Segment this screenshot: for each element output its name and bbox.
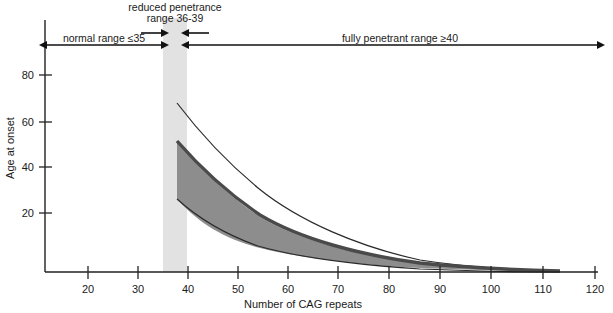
- upper-bound-curve: [177, 103, 560, 271]
- x-tick-label-70: 70: [332, 283, 344, 295]
- y-tick-label-60: 60: [22, 116, 34, 128]
- x-tick-label-60: 60: [282, 283, 294, 295]
- x-tick-label-50: 50: [232, 283, 244, 295]
- x-tick-label-30: 30: [132, 283, 144, 295]
- x-tick-label-20: 20: [82, 283, 94, 295]
- x-axis-title: Number of CAG repeats: [244, 298, 362, 310]
- chart-container: 80 60 40 20 Age at onset 20 30 40 50 60 …: [0, 0, 613, 313]
- y-tick-label-40: 40: [22, 161, 34, 173]
- x-tick-label-110: 110: [534, 283, 552, 295]
- reduced-penetrance-label-line2: range 36-39: [147, 12, 204, 24]
- x-tick-label-40: 40: [182, 283, 194, 295]
- cag-onset-chart: 80 60 40 20 Age at onset 20 30 40 50 60 …: [0, 0, 613, 313]
- x-tick-label-80: 80: [383, 283, 395, 295]
- y-tick-label-80: 80: [22, 69, 34, 81]
- y-axis-title: Age at onset: [4, 117, 16, 179]
- fully-penetrant-label: fully penetrant range ≥40: [342, 32, 458, 44]
- x-tick-label-100: 100: [482, 283, 500, 295]
- x-tick-label-90: 90: [434, 283, 446, 295]
- normal-range-label: normal range ≤35: [63, 32, 145, 44]
- x-tick-label-120: 120: [586, 283, 604, 295]
- y-tick-label-20: 20: [22, 207, 34, 219]
- reduced-penetrance-band: [163, 18, 187, 272]
